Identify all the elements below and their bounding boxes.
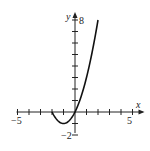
y-axis-label: y — [65, 11, 71, 22]
y-min-label: −2 — [61, 130, 72, 141]
y-max-label: 8 — [79, 15, 84, 26]
x-min-label: −5 — [11, 115, 22, 126]
x-arrow-icon — [139, 110, 145, 115]
y-arrow-icon — [73, 12, 78, 18]
x-max-label: 5 — [127, 115, 132, 126]
x-axis-label: x — [135, 99, 141, 110]
axes — [17, 14, 143, 133]
function-graph: x y −5 5 8 −2 — [0, 0, 150, 151]
